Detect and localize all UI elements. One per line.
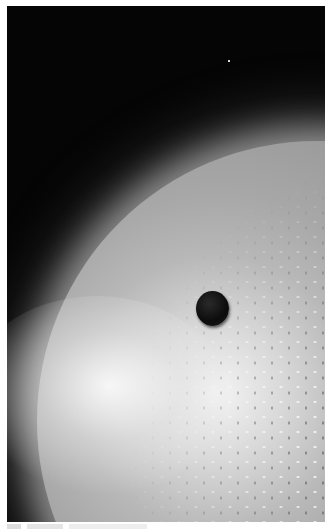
caption-fragment	[7, 524, 147, 529]
transiting-planet	[196, 291, 229, 326]
space-illustration	[7, 6, 325, 522]
